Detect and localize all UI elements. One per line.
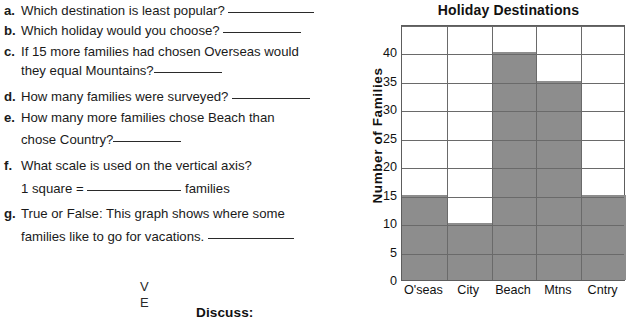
question-continuation: they equal Mountains? [21, 62, 222, 78]
answer-blank[interactable] [232, 88, 310, 99]
chart-y-tick-label: 40 [355, 47, 397, 59]
question-text: True or False: This graph shows where so… [21, 206, 285, 221]
question-letter: b. [4, 23, 21, 38]
question-row: c.If 15 more families had chosen Oversea… [4, 44, 356, 59]
chart-y-tick-label: 0 [355, 275, 397, 287]
question-continuation: families like to go for vacations. [21, 228, 294, 244]
question-row: b.Which holiday would you choose? [4, 22, 356, 38]
chart-y-tick-label: 10 [355, 218, 397, 230]
chart-y-tick-label: 15 [355, 190, 397, 202]
question-letter: f. [4, 158, 21, 173]
question-letter: c. [4, 44, 21, 59]
answer-blank[interactable] [87, 180, 181, 191]
question-continuation-text: 1 square = [21, 181, 87, 196]
question-text: Which holiday would you choose? [21, 23, 220, 38]
margin-mark-letter: V [140, 280, 149, 294]
chart-plot-area [401, 25, 625, 281]
chart-x-tick-label: City [446, 283, 491, 297]
chart-gridline-horizontal [402, 26, 624, 27]
discuss-heading: Discuss: [196, 305, 253, 318]
question-continuation-text: they equal Mountains? [21, 63, 154, 78]
question-text: How many families were surveyed? [21, 89, 228, 104]
answer-blank[interactable] [208, 228, 294, 239]
chart-y-axis-ticks: 0510152025303540 [352, 25, 397, 281]
chart-y-tick-label: 5 [355, 247, 397, 259]
question-text: How many more families chose Beach than [21, 110, 275, 125]
chart-x-tick-label: Cntry [580, 283, 625, 297]
question-continuation-text: families like to go for vacations. [21, 229, 208, 244]
question-continuation: 1 square = families [21, 180, 230, 196]
question-row: a.Which destination is least popular? [4, 2, 356, 18]
chart-y-tick-label: 30 [355, 104, 397, 116]
question-row: g.True or False: This graph shows where … [4, 206, 356, 221]
answer-blank[interactable] [223, 22, 301, 33]
chart-x-tick-label: O'seas [401, 283, 446, 297]
question-letter: d. [4, 89, 21, 104]
chart-x-tick-label: Mtns [535, 283, 580, 297]
question-text: If 15 more families had chosen Overseas … [21, 44, 299, 59]
chart-x-tick-label: Beach [491, 283, 536, 297]
question-continuation-text: chose Country? [21, 132, 113, 147]
chart-y-tick-label: 35 [355, 76, 397, 88]
answer-blank[interactable] [228, 2, 314, 13]
question-row: f.What scale is used on the vertical axi… [4, 158, 356, 173]
chart-bar [536, 81, 581, 280]
answer-blank[interactable] [154, 62, 222, 73]
holiday-destinations-chart: Holiday Destinations Number of Families … [352, 0, 639, 318]
question-row: e.How many more families chose Beach tha… [4, 110, 356, 125]
question-letter: a. [4, 3, 21, 18]
answer-blank[interactable] [113, 131, 181, 142]
worksheet-questions: a.Which destination is least popular? b.… [0, 0, 358, 280]
chart-bar [581, 195, 626, 280]
question-continuation: chose Country? [21, 131, 181, 147]
chart-y-tick-label: 25 [355, 133, 397, 145]
question-letter: e. [4, 110, 21, 125]
chart-bar [492, 52, 537, 280]
chart-y-tick-label: 20 [355, 161, 397, 173]
question-row: d.How many families were surveyed? [4, 88, 356, 104]
question-text: What scale is used on the vertical axis? [21, 158, 252, 173]
question-text: Which destination is least popular? [21, 3, 225, 18]
chart-title: Holiday Destinations [352, 2, 639, 18]
question-letter: g. [4, 206, 21, 221]
chart-bar [447, 223, 492, 280]
margin-mark-letter: E [140, 296, 149, 310]
question-continuation-suffix: families [181, 181, 229, 196]
chart-bar [402, 195, 447, 280]
